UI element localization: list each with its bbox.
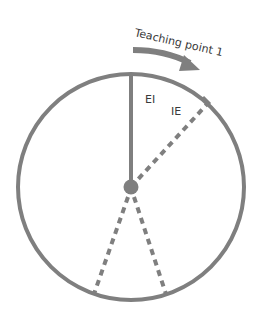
bottom-left-dashed-radius <box>94 197 128 294</box>
center-dot <box>124 180 139 195</box>
ei-label: EI <box>145 93 155 106</box>
bottom-right-dashed-radius <box>134 197 166 294</box>
teaching-point-label: Teaching point 1 <box>132 26 224 59</box>
clockwise-arrow-icon <box>133 50 190 63</box>
ie-dashed-radius <box>131 102 209 187</box>
ie-label: IE <box>171 105 181 118</box>
teaching-point-diagram: Teaching point 1 EI IE <box>0 0 258 325</box>
